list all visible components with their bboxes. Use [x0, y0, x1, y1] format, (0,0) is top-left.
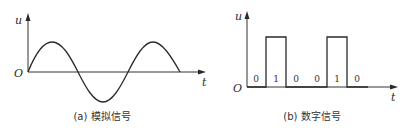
analog-y-label: u [15, 14, 22, 27]
digital-caption: (b) 数字信号 [283, 110, 340, 122]
digital-signal-panel: 0 1 0 0 1 0 u O t (b) 数字信号 [233, 10, 398, 122]
analog-caption: (a) 模拟信号 [73, 110, 130, 122]
bit-label: 0 [253, 74, 259, 84]
digital-x-axis-arrow-icon [390, 85, 398, 90]
bit-label: 0 [354, 74, 360, 84]
analog-x-label: t [202, 76, 207, 89]
bit-label: 1 [273, 74, 279, 84]
bit-label: 0 [293, 74, 299, 84]
analog-y-axis-arrow-icon [26, 13, 31, 21]
digital-square-wave [247, 37, 368, 87]
digital-x-label: t [391, 91, 396, 104]
bit-label: 0 [314, 74, 320, 84]
digital-y-axis-arrow-icon [245, 11, 250, 19]
analog-origin-label: O [14, 67, 23, 80]
analog-x-axis-arrow-icon [198, 70, 206, 75]
analog-signal-panel: u O t (a) 模拟信号 [14, 13, 207, 122]
digital-origin-label: O [233, 82, 242, 95]
bit-label: 1 [334, 74, 340, 84]
digital-y-label: u [235, 10, 242, 23]
signal-diagram: u O t (a) 模拟信号 0 1 0 0 1 0 u O t (b) 数字信… [0, 0, 410, 131]
